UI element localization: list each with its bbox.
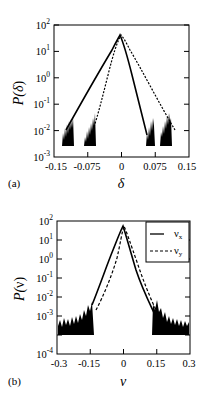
panel-b-xlabel: ν bbox=[120, 374, 127, 389]
xtick-label: 0.15 bbox=[147, 358, 165, 369]
xtick-label: 0.15 bbox=[178, 161, 196, 172]
ytick-label: 10-2 bbox=[36, 289, 53, 303]
ytick-label: 10-2 bbox=[33, 123, 50, 137]
panel-a-xtick-labels: -0.15 -0.075 0 0.075 0.15 bbox=[45, 161, 196, 172]
ytick-label: 101 bbox=[39, 232, 54, 246]
xtick-label: -0.075 bbox=[73, 161, 100, 172]
panel-a-noise-tails bbox=[62, 113, 172, 146]
xtick-label: 0.075 bbox=[143, 161, 167, 172]
panel-b-xticks bbox=[90, 349, 157, 354]
ytick-label: 10-1 bbox=[36, 270, 53, 284]
ytick-label: 10-3 bbox=[36, 308, 53, 322]
panel-a-ytick-labels: 102 101 100 10-1 10-2 10-3 bbox=[33, 17, 50, 163]
panel-b-xtick-labels: -0.3 -0.15 0 0.15 0.3 bbox=[51, 358, 196, 369]
panel-b-ylabel: P(ν) bbox=[12, 277, 28, 303]
legend-box bbox=[146, 222, 189, 262]
legend: νx νy bbox=[146, 222, 189, 262]
panel-b-label: (b) bbox=[8, 375, 21, 388]
ytick-label: 102 bbox=[39, 213, 54, 227]
xtick-label: -0.15 bbox=[78, 358, 100, 369]
panel-a-xlabel: δ bbox=[118, 176, 125, 191]
panel-a-solid-curve bbox=[66, 35, 147, 135]
xtick-label: 0.3 bbox=[182, 358, 195, 369]
panel-a-xticks bbox=[88, 152, 156, 157]
ytick-label: 101 bbox=[36, 43, 51, 57]
figure: 102 101 100 10-1 10-2 10-3 -0.15 -0.075 … bbox=[0, 0, 206, 404]
xtick-label: 0 bbox=[119, 161, 124, 172]
panel-a-label: (a) bbox=[8, 177, 21, 190]
panel-b: νx νy 102 101 100 10-1 10-2 10-3 10-4 -0… bbox=[8, 213, 196, 389]
ytick-label: 100 bbox=[36, 70, 51, 84]
ytick-label: 100 bbox=[39, 251, 54, 265]
panel-b-noise-tails bbox=[58, 300, 189, 335]
panel-b-ytick-labels: 102 101 100 10-1 10-2 10-3 10-4 bbox=[36, 213, 53, 360]
xtick-label: 0 bbox=[121, 358, 126, 369]
xtick-label: -0.15 bbox=[45, 161, 67, 172]
panel-a: 102 101 100 10-1 10-2 10-3 -0.15 -0.075 … bbox=[8, 17, 196, 191]
ytick-label: 10-1 bbox=[33, 96, 50, 110]
xtick-label: -0.3 bbox=[51, 358, 68, 369]
ytick-label: 102 bbox=[36, 17, 51, 31]
panel-a-ylabel: P(δ) bbox=[11, 80, 27, 106]
